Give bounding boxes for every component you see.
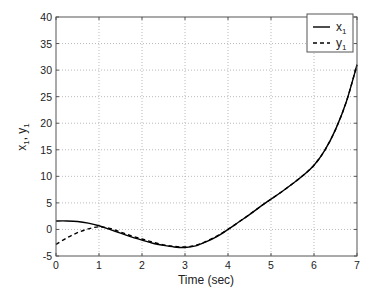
x-tick-label: 4 bbox=[225, 259, 231, 271]
x-tick-label: 3 bbox=[182, 259, 188, 271]
y-tick-label: 25 bbox=[40, 91, 52, 103]
y-tick-label: 5 bbox=[46, 197, 52, 209]
x-tick-label: 1 bbox=[96, 259, 102, 271]
x-tick-label: 2 bbox=[139, 259, 145, 271]
x-tick-label: 5 bbox=[268, 259, 274, 271]
data-series bbox=[56, 65, 357, 248]
x-tick-label: 6 bbox=[311, 259, 317, 271]
line-chart: 01234567-50510152025303540 x1 y1 Time (s… bbox=[0, 0, 375, 294]
x-tick-label: 0 bbox=[53, 259, 59, 271]
x-axis-label: Time (sec) bbox=[178, 273, 234, 287]
plot-area-border bbox=[56, 17, 357, 256]
series-line-y1 bbox=[56, 65, 357, 247]
y-tick-label: 15 bbox=[40, 144, 52, 156]
y-tick-label: -5 bbox=[43, 250, 52, 262]
y-tick-label: 30 bbox=[40, 64, 52, 76]
y-axis-label: x1, y1 bbox=[15, 123, 31, 151]
x-tick-label: 7 bbox=[354, 259, 360, 271]
y-tick-label: 10 bbox=[40, 170, 52, 182]
grid-lines bbox=[56, 17, 357, 256]
y-tick-label: 20 bbox=[40, 117, 52, 129]
series-line-x1 bbox=[56, 65, 357, 248]
y-tick-label: 35 bbox=[40, 38, 52, 50]
legend: x1 y1 bbox=[307, 14, 353, 52]
y-tick-label: 0 bbox=[46, 223, 52, 235]
y-tick-label: 40 bbox=[40, 11, 52, 23]
